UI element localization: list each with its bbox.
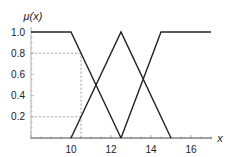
axes: 10121416 0.20.40.60.81.0 (11, 27, 212, 156)
y-ticks: 0.20.40.60.81.0 (11, 27, 34, 133)
series-triangle-middle (71, 32, 171, 138)
x-tick-label: 16 (185, 144, 197, 155)
membership-function-chart: 10121416 0.20.40.60.81.0 μ(x) x (0, 0, 235, 157)
y-axis-label: μ(x) (23, 10, 43, 22)
dashed-guides (31, 53, 81, 138)
y-tick-label: 1.0 (11, 27, 25, 38)
y-tick-label: 0.8 (11, 48, 25, 59)
series-lines (31, 32, 211, 138)
x-axis-label: x (216, 132, 223, 144)
series-right-shoulder (121, 32, 211, 138)
y-tick-label: 0.4 (11, 90, 25, 101)
y-tick-label: 0.2 (11, 111, 25, 122)
y-tick-label: 0.6 (11, 69, 25, 80)
series-left-shoulder (31, 32, 121, 138)
x-tick-label: 14 (145, 144, 157, 155)
x-tick-label: 10 (65, 144, 77, 155)
x-tick-label: 12 (105, 144, 117, 155)
